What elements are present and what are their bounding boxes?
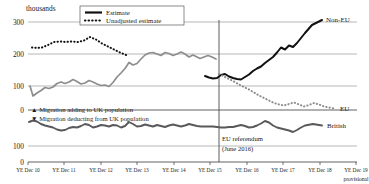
series-british	[29, 121, 322, 133]
legend-label-estimate: Estimate	[106, 9, 130, 16]
provisional-note: provisional	[343, 176, 369, 182]
ytick-100: 100	[13, 82, 24, 91]
y-axis-unit-label: thousands	[26, 4, 56, 13]
xtick-8: YE Dec 18	[308, 167, 332, 173]
series-noneu-unadjusted	[30, 52, 216, 96]
ytick-200: 200	[13, 50, 24, 59]
xtick-4: YE Dec 14	[162, 167, 186, 173]
legend-label-unadjusted: Unadjusted estimate	[106, 17, 161, 24]
bottom-panel-gridlines	[28, 146, 357, 162]
ytick-0-top: 0	[20, 106, 24, 115]
xtick-6: YE Dec 16	[235, 167, 259, 173]
xtick-5: YE Dec 15	[198, 167, 222, 173]
series-eu-unadjusted	[32, 37, 126, 55]
chart-svg: Estimate Unadjusted estimate thousands 3…	[0, 0, 369, 184]
ytick-0-bottom: 0	[20, 158, 24, 167]
series-label-eu: EU	[340, 105, 349, 113]
legend: Estimate Unadjusted estimate	[80, 6, 184, 25]
annotation-migration-adding: ▲ Migration adding to UK population	[31, 106, 134, 113]
xtick-9: YE Dec 19	[344, 167, 368, 173]
ytick-100-bottom: 100	[13, 142, 24, 151]
annotation-migration-deducting: ▼ Migration deducting from UK population	[31, 115, 149, 122]
xtick-1: YE Dec 11	[52, 167, 76, 173]
migration-chart: Estimate Unadjusted estimate thousands 3…	[0, 0, 369, 184]
series-noneu-estimate	[205, 20, 322, 80]
x-axis-labels: YE Dec 10 YE Dec 11 YE Dec 12 YE Dec 13 …	[16, 167, 369, 182]
annotation-referendum-line1: EU referendum	[222, 135, 264, 142]
xtick-2: YE Dec 12	[89, 167, 113, 173]
top-panel-gridlines	[28, 22, 357, 110]
xtick-3: YE Dec 13	[125, 167, 149, 173]
ytick-300: 300	[13, 18, 24, 27]
xtick-7: YE Dec 17	[271, 167, 295, 173]
annotation-referendum-line2: (June 2016)	[222, 145, 253, 153]
xtick-0: YE Dec 10	[16, 167, 40, 173]
x-tick-marks	[28, 162, 356, 165]
series-label-british: British	[327, 122, 347, 130]
series-label-non-eu: Non-EU	[326, 16, 350, 24]
